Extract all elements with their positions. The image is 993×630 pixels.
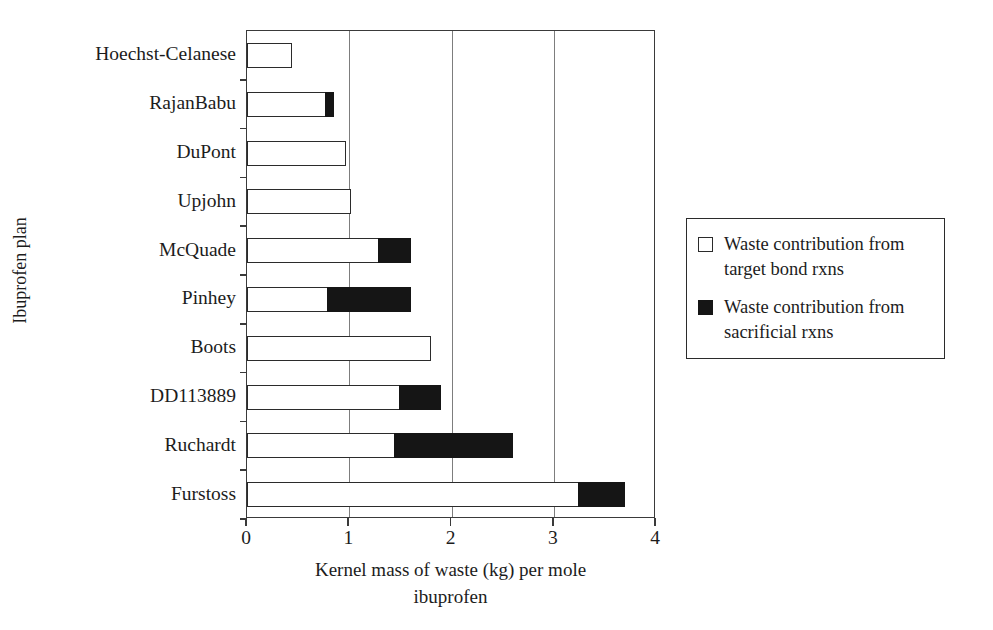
y-category-label: Pinhey (6, 288, 236, 308)
bar-segment-sacrificial (399, 385, 441, 410)
y-axis-tick (240, 323, 247, 325)
y-axis-tick (240, 177, 247, 179)
x-axis-title-line: Kernel mass of waste (kg) per mole (246, 557, 655, 584)
legend-label-line: Waste contribution from (724, 295, 904, 320)
y-category-label: DuPont (6, 142, 236, 162)
stacked-bar (247, 141, 346, 166)
y-category-label: RajanBabu (6, 93, 236, 113)
bar-segment-target-bond (247, 141, 346, 166)
y-axis-tick (240, 469, 247, 471)
y-axis-tick (240, 372, 247, 374)
x-axis-tick-label: 1 (328, 528, 368, 548)
stacked-bar (247, 482, 625, 507)
x-axis-tick (450, 518, 452, 526)
bar-segment-target-bond (247, 238, 380, 263)
stacked-bar (247, 43, 292, 68)
y-axis-tick (240, 225, 247, 227)
legend-label: Waste contribution fromtarget bond rxns (724, 232, 904, 282)
legend-label-line: Waste contribution from (724, 232, 904, 257)
bar-row (247, 421, 654, 470)
bar-segment-target-bond (247, 287, 329, 312)
bar-row (247, 129, 654, 178)
bar-segment-sacrificial (578, 482, 626, 507)
bar-segment-sacrificial (378, 238, 410, 263)
bar-segment-sacrificial (327, 287, 410, 312)
y-category-label: Boots (6, 337, 236, 357)
legend-item: Waste contribution fromsacrificial rxns (698, 295, 934, 345)
filled-square-marker-icon (698, 300, 713, 315)
y-axis-tick (240, 274, 247, 276)
legend: Waste contribution fromtarget bond rxnsW… (686, 218, 945, 359)
bar-row (247, 80, 654, 129)
bar-row (247, 31, 654, 80)
bar-segment-target-bond (247, 43, 292, 68)
stacked-bar (247, 238, 411, 263)
x-axis-tick (552, 518, 554, 526)
stacked-bar (247, 287, 411, 312)
stacked-bar (247, 92, 334, 117)
y-axis-tick (240, 79, 247, 81)
stacked-bar (247, 336, 431, 361)
bar-segment-sacrificial (394, 433, 513, 458)
stacked-bar (247, 385, 441, 410)
stacked-bar (247, 189, 351, 214)
bar-row (247, 324, 654, 373)
bar-segment-target-bond (247, 385, 400, 410)
legend-label-line: sacrificial rxns (724, 320, 904, 345)
y-axis-tick (240, 128, 247, 130)
x-axis-tick (347, 518, 349, 526)
stacked-bar (247, 433, 513, 458)
ibuprofen-waste-bar-chart: Ibuprofen plan Hoechst-CelaneseRajanBabu… (0, 0, 993, 630)
y-axis-tick (240, 421, 247, 423)
x-axis-tick (654, 518, 656, 526)
y-category-labels: Hoechst-CelaneseRajanBabuDuPontUpjohnMcQ… (0, 30, 236, 518)
legend-item: Waste contribution fromtarget bond rxns (698, 232, 934, 282)
x-axis-title-line: ibuprofen (246, 584, 655, 611)
bar-row (247, 373, 654, 422)
bar-segment-target-bond (247, 189, 351, 214)
legend-label: Waste contribution fromsacrificial rxns (724, 295, 904, 345)
y-category-label: Ruchardt (6, 435, 236, 455)
x-axis-tick-label: 3 (533, 528, 573, 548)
bar-segment-target-bond (247, 92, 327, 117)
bar-segment-target-bond (247, 482, 579, 507)
bar-row (247, 226, 654, 275)
y-category-label: Furstoss (6, 484, 236, 504)
bar-row (247, 470, 654, 519)
bar-segment-sacrificial (325, 92, 334, 117)
x-axis: 01234 (246, 518, 655, 558)
x-axis-tick-label: 0 (226, 528, 266, 548)
y-category-label: Upjohn (6, 191, 236, 211)
x-axis-tick-label: 4 (635, 528, 675, 548)
x-axis-tick-label: 2 (431, 528, 471, 548)
x-axis-title: Kernel mass of waste (kg) per moleibupro… (246, 557, 655, 611)
open-square-marker-icon (698, 237, 713, 252)
y-category-label: Hoechst-Celanese (6, 44, 236, 64)
y-category-label: DD113889 (6, 386, 236, 406)
x-axis-tick (245, 518, 247, 526)
bar-segment-target-bond (247, 433, 395, 458)
bar-segment-target-bond (247, 336, 431, 361)
bar-row (247, 275, 654, 324)
y-category-label: McQuade (6, 240, 236, 260)
legend-label-line: target bond rxns (724, 257, 904, 282)
bar-row (247, 177, 654, 226)
plot-area (246, 30, 655, 518)
